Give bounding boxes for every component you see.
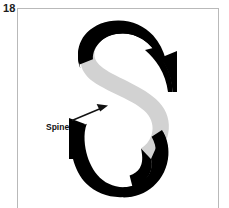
letter-specimen-diagram: Spine: [17, 8, 229, 208]
spine-callout-label: Spine: [46, 122, 69, 132]
spine-callout-arrow-head: [97, 104, 108, 112]
letter-specimen-stage: Spine: [17, 8, 229, 208]
letter-s-upper-bowl: [78, 20, 166, 64]
spine-callout-arrow-line: [72, 108, 103, 121]
figure-container: 18: [0, 0, 229, 208]
letter-s-glyph: [69, 20, 177, 197]
figure-number-label: 18: [3, 2, 15, 15]
